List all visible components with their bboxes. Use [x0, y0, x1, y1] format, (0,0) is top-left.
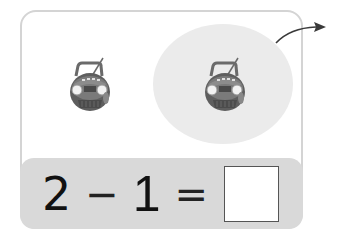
answer-box[interactable]: [224, 166, 279, 222]
minuend: 2: [42, 171, 71, 217]
subtrahend: 1: [133, 169, 161, 219]
minus-sign: −: [85, 174, 119, 214]
equation: 2 − 1 =: [20, 158, 224, 229]
boombox-icon: [70, 58, 110, 111]
equals-sign: =: [174, 174, 208, 214]
take-away-arrow-icon: [276, 22, 326, 43]
